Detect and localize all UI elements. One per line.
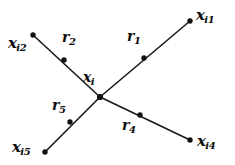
label-r1-sub: 1 xyxy=(134,35,141,46)
label-r5-sub: 5 xyxy=(59,104,66,115)
label-r4: r4 xyxy=(122,118,136,132)
node-endpoint-xi1 xyxy=(187,18,192,23)
vector-diagram: xi1 xi2 xi4 xi5 xi r1 r2 r4 r5 xyxy=(0,0,235,165)
label-center-sub: i xyxy=(91,76,95,87)
node-endpoint-xi4 xyxy=(187,137,192,142)
label-r5: r5 xyxy=(52,98,66,112)
label-xi5-sub: i5 xyxy=(20,146,30,157)
label-r1: r1 xyxy=(127,29,141,43)
label-center-xi: xi xyxy=(83,70,95,84)
node-midpoint-r1 xyxy=(141,55,146,60)
label-xi1: xi1 xyxy=(196,8,215,23)
label-xi4: xi4 xyxy=(197,134,216,149)
node-center-xi xyxy=(97,94,103,100)
label-r2-sub: 2 xyxy=(69,36,76,47)
label-xi2-sub: i2 xyxy=(16,42,26,53)
label-r2: r2 xyxy=(62,30,76,44)
edge-center-to-xi4 xyxy=(100,97,190,140)
node-midpoint-r5 xyxy=(67,119,72,124)
label-xi5: xi5 xyxy=(12,140,31,155)
label-xi4-sub: i4 xyxy=(205,140,215,151)
node-midpoint-r2 xyxy=(61,57,66,62)
node-midpoint-r4 xyxy=(137,112,142,117)
label-r4-sub: 4 xyxy=(129,124,136,135)
node-endpoint-xi2 xyxy=(30,32,35,37)
edges-group xyxy=(33,21,190,152)
label-xi2: xi2 xyxy=(8,36,27,51)
node-endpoint-xi5 xyxy=(42,149,47,154)
label-xi1-sub: i1 xyxy=(204,14,214,25)
